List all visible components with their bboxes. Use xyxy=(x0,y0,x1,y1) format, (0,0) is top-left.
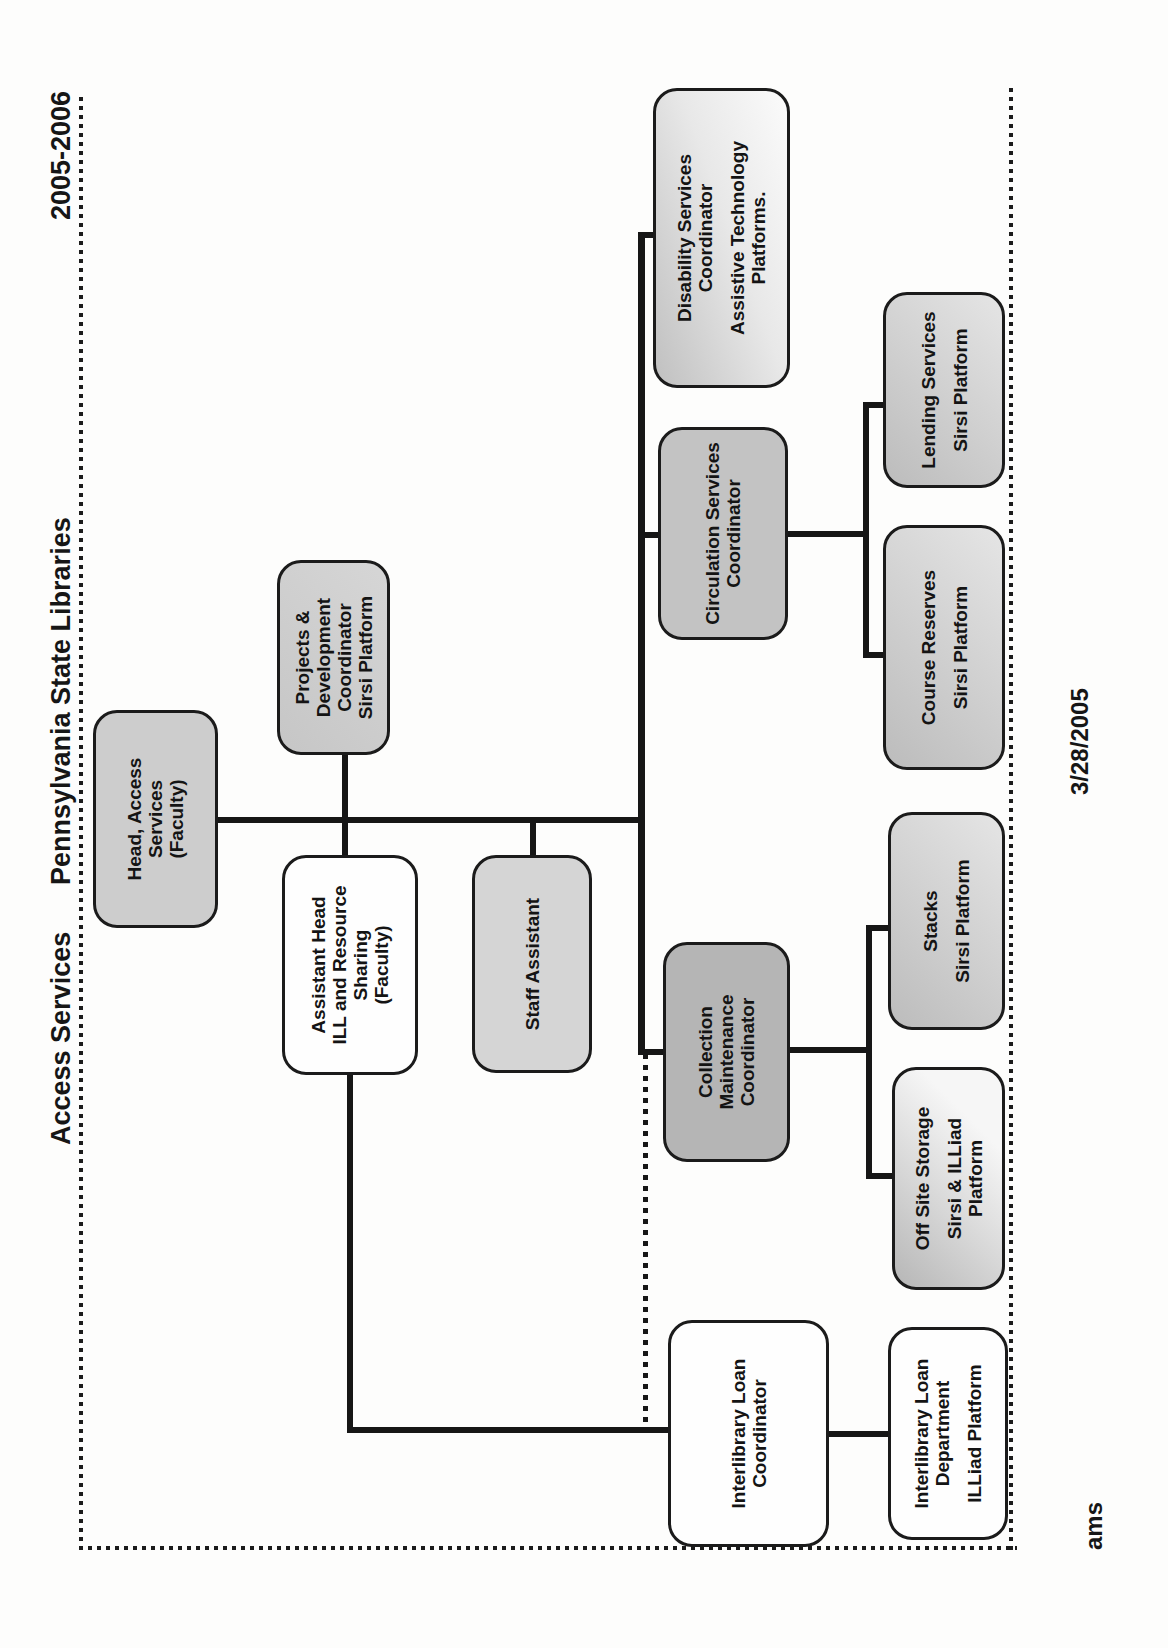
connector-line xyxy=(347,1427,672,1433)
org-box-line: Platform xyxy=(965,1140,986,1217)
org-box-line: Disability Services xyxy=(674,154,695,322)
connector-line xyxy=(829,1431,890,1437)
org-box-line: Sirsi Platform xyxy=(950,586,971,710)
org-box-line: Development xyxy=(313,598,334,717)
org-box-line: Projects & xyxy=(292,611,313,705)
org-box-line: Assistant Head xyxy=(308,896,329,1033)
org-box-line: Staff Assistant xyxy=(522,898,543,1030)
org-box-line: Coordinator xyxy=(723,479,744,588)
org-box-line: ILL and Resource xyxy=(329,885,350,1044)
org-box-projects-development-coordinator: Projects &DevelopmentCoordinatorSirsi Pl… xyxy=(277,560,390,755)
org-box-stacks: StacksSirsi Platform xyxy=(888,812,1005,1030)
org-box-line: Platforms. xyxy=(748,192,769,285)
org-box-line: Head, Access xyxy=(124,758,145,881)
connector-line xyxy=(530,817,536,855)
connector-line xyxy=(866,925,872,1179)
org-box-line: Collection xyxy=(695,1006,716,1098)
org-box-collection-maintenance-coordinator: CollectionMaintenanceCoordinator xyxy=(663,942,790,1162)
connector-line xyxy=(218,817,644,823)
org-box-line: (Faculty) xyxy=(166,779,187,858)
org-box-line: Sirsi Platform xyxy=(952,859,973,983)
connector-line xyxy=(347,1074,353,1430)
org-box-line: Sharing xyxy=(350,930,371,1001)
org-box-line: ILLiad Platform xyxy=(964,1364,985,1502)
connector-line xyxy=(342,755,348,855)
org-box-line: Coordinator xyxy=(737,998,758,1107)
dotted-connector-line xyxy=(643,1051,648,1433)
org-box-interlibrary-loan-department: Interlibrary LoanDepartmentILLiad Platfo… xyxy=(888,1327,1008,1540)
date-label: 3/28/2005 xyxy=(1066,688,1094,795)
org-box-line: Circulation Services xyxy=(702,442,723,625)
dotted-border-bottom xyxy=(1009,84,1013,1550)
org-chart-page: Access Services Pennsylvania State Libra… xyxy=(0,0,1168,1648)
connector-line xyxy=(790,1047,872,1053)
org-box-off-site-storage: Off Site StorageSirsi & ILLiadPlatform xyxy=(892,1067,1005,1290)
org-box-circulation-services-coordinator: Circulation ServicesCoordinator xyxy=(658,427,788,640)
org-box-staff-assistant: Staff Assistant xyxy=(472,855,592,1073)
org-box-line: Lending Services xyxy=(918,311,939,468)
org-box-line: Coordinator xyxy=(334,603,355,712)
org-box-line: Sirsi Platform xyxy=(355,596,376,720)
org-box-head-access-services: Head, AccessServices(Faculty) xyxy=(93,710,218,928)
org-box-line: Coordinator xyxy=(695,184,716,293)
org-box-line: Course Reserves xyxy=(918,570,939,725)
connector-line xyxy=(638,232,645,1055)
org-box-assistant-head: Assistant HeadILL and ResourceSharing(Fa… xyxy=(282,855,418,1075)
author-initials: ams xyxy=(1080,1502,1108,1550)
org-box-line: Assistive Technology xyxy=(727,141,748,335)
connector-line xyxy=(863,402,869,658)
org-box-lending-services: Lending ServicesSirsi Platform xyxy=(883,292,1005,488)
org-box-course-reserves: Course ReservesSirsi Platform xyxy=(883,525,1005,770)
org-box-line: Department xyxy=(932,1381,953,1487)
dotted-border-top xyxy=(79,92,83,1550)
org-box-line: Stacks xyxy=(920,890,941,951)
connector-line xyxy=(788,531,869,537)
org-box-line: Services xyxy=(145,780,166,858)
page-title-year: 2005-2006 xyxy=(46,91,77,220)
org-box-line: Maintenance xyxy=(716,994,737,1109)
page-title-department: Access Services xyxy=(46,932,77,1145)
page-title-organization: Pennsylvania State Libraries xyxy=(46,517,77,885)
org-box-line: Sirsi & ILLiad xyxy=(944,1118,965,1239)
org-box-line: Interlibrary Loan xyxy=(911,1359,932,1509)
dotted-border-left xyxy=(79,1546,1017,1550)
org-box-line: Sirsi Platform xyxy=(950,328,971,452)
org-box-disability-services-coordinator: Disability ServicesCoordinatorAssistive … xyxy=(653,88,790,388)
org-box-line: Coordinator xyxy=(749,1379,770,1488)
org-box-interlibrary-loan-coordinator: Interlibrary LoanCoordinator xyxy=(668,1320,829,1547)
org-box-line: Interlibrary Loan xyxy=(728,1359,749,1509)
org-box-line: Off Site Storage xyxy=(912,1107,933,1251)
org-box-line: (Faculty) xyxy=(371,925,392,1004)
